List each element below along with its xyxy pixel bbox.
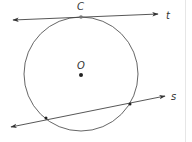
- tangent-line-t: [13, 14, 158, 20]
- point-s-intersection-right: [129, 103, 132, 106]
- label-c: C: [77, 1, 84, 12]
- label-t: t: [166, 10, 171, 21]
- label-s: s: [171, 91, 176, 102]
- secant-line-s: [11, 96, 165, 127]
- circle-diagram-svg: C O t s: [0, 0, 192, 142]
- point-s-intersection-left: [45, 117, 48, 120]
- point-c: [79, 15, 83, 19]
- point-o-center: [79, 73, 83, 77]
- label-o: O: [77, 60, 85, 71]
- right-edge-divider: [185, 0, 186, 142]
